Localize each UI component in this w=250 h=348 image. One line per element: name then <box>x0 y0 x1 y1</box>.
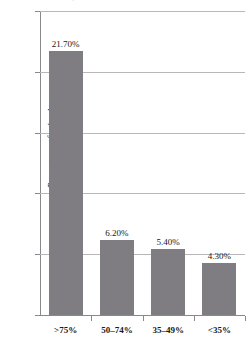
y-tick-mark <box>35 254 40 255</box>
gridline <box>40 11 245 12</box>
x-tick-mark <box>194 316 195 321</box>
clipped-title-artifact: · <box>72 0 82 3</box>
bar-chart: · Percentage of schools 21.70%6.20%5.40%… <box>0 0 250 348</box>
bar-value-label: 4.30% <box>189 251 249 261</box>
y-tick-mark <box>35 315 40 316</box>
bar-value-label: 5.40% <box>138 237 198 247</box>
plot-area: Percentage of schools 21.70%6.20%5.40%4.… <box>40 11 245 315</box>
y-tick-mark <box>35 133 40 134</box>
bar <box>151 249 185 315</box>
y-tick-mark <box>35 72 40 73</box>
bar-value-label: 21.70% <box>36 39 96 49</box>
x-tick-mark <box>91 316 92 321</box>
y-tick-mark <box>35 11 40 12</box>
bar <box>49 51 83 315</box>
x-tick-label: <35% <box>184 325 250 335</box>
bar-value-label: 6.20% <box>87 228 147 238</box>
x-tick-mark <box>245 316 246 321</box>
bar <box>202 263 236 315</box>
bar <box>100 240 134 315</box>
x-tick-mark <box>143 316 144 321</box>
y-tick-mark <box>35 193 40 194</box>
